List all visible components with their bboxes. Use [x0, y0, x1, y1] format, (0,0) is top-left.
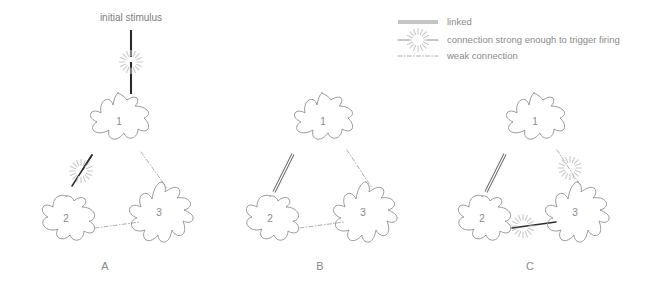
legend-item-firing: connection strong enough to trigger firi… — [398, 29, 620, 52]
cell-b-2-label: 2 — [267, 213, 273, 224]
cell-a-2-label: 2 — [63, 213, 69, 224]
legend-label-weak: weak connection — [446, 50, 518, 61]
connection-c-2-3 — [512, 222, 556, 228]
cell-c-2: 2 — [458, 195, 510, 240]
legend-label-linked: linked — [447, 16, 472, 27]
panel-label-c: C — [526, 260, 534, 272]
panel-a: initial stimulus 1 2 3 A — [42, 12, 193, 272]
cell-a-2: 2 — [42, 195, 94, 240]
cell-b-1-label: 1 — [320, 116, 326, 127]
cell-c-1: 1 — [506, 93, 564, 139]
burst-icon — [407, 29, 430, 52]
legend: linked connection strong enough to trigg… — [398, 16, 620, 61]
initial-stimulus-group: initial stimulus — [100, 12, 162, 94]
panel-c: 1 2 3 C — [458, 93, 609, 272]
cell-c-3-label: 3 — [572, 207, 578, 218]
connection-c-1-2 — [486, 154, 505, 192]
legend-label-firing: connection strong enough to trigger firi… — [447, 34, 620, 45]
cell-c-1-label: 1 — [532, 116, 538, 127]
cell-b-1: 1 — [294, 93, 352, 139]
cell-a-1-label: 1 — [116, 116, 122, 127]
cell-a-3: 3 — [129, 182, 193, 242]
panel-label-a: A — [101, 260, 109, 272]
cell-c-3: 3 — [545, 182, 609, 242]
cell-b-3-label: 3 — [360, 207, 366, 218]
cell-b-2: 2 — [246, 195, 298, 240]
panel-b: 1 2 3 B — [246, 93, 397, 272]
connection-b-1-3 — [347, 150, 372, 188]
cell-c-2-label: 2 — [479, 213, 485, 224]
cell-a-3-label: 3 — [156, 207, 162, 218]
burst-c-1-3-icon — [559, 157, 582, 180]
panel-label-b: B — [316, 260, 323, 272]
connection-b-1-2 — [274, 154, 293, 192]
legend-item-weak: weak connection — [398, 50, 518, 61]
initial-stimulus-label: initial stimulus — [100, 12, 162, 23]
neuron-connectivity-diagram: linked connection strong enough to trigg… — [0, 0, 652, 282]
legend-firing-symbol — [398, 29, 438, 52]
connection-b-2-3 — [300, 222, 344, 228]
cell-a-1: 1 — [90, 93, 148, 139]
cell-b-3: 3 — [333, 182, 397, 242]
connection-a-2-3 — [95, 222, 140, 228]
legend-item-linked: linked — [398, 16, 472, 27]
